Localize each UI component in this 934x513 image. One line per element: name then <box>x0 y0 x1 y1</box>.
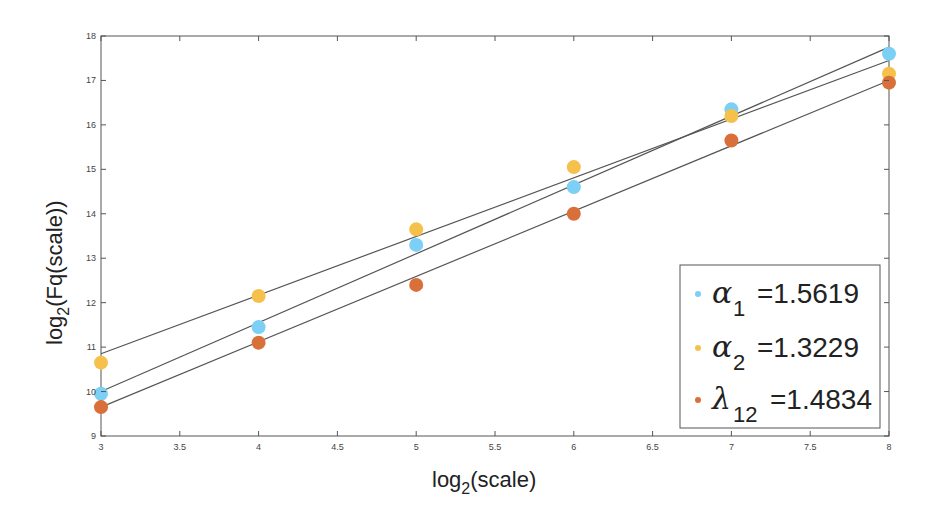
legend-greek-alpha1: α <box>712 275 732 310</box>
x-tick-label: 8 <box>886 442 891 452</box>
data-point <box>567 180 581 194</box>
y-axis-label: log2(Fq(scale)) <box>42 200 72 345</box>
x-tick-label: 3 <box>98 442 103 452</box>
x-tick-label: 6.5 <box>646 442 659 452</box>
data-point <box>94 387 108 401</box>
legend-sub-alpha1: 1 <box>733 296 745 321</box>
legend-value-alpha2: =1.3229 <box>757 332 859 363</box>
legend-sub-alpha2: 2 <box>733 350 745 375</box>
data-point <box>567 160 581 174</box>
data-point <box>724 109 738 123</box>
y-tick-label: 17 <box>86 75 96 85</box>
x-tick-label: 6 <box>571 442 576 452</box>
scaling-chart: 33.544.555.566.577.58 910111213141516171… <box>0 0 934 513</box>
x-tick-label: 7.5 <box>804 442 817 452</box>
data-point <box>94 356 108 370</box>
legend-value-alpha1: =1.5619 <box>757 278 859 309</box>
data-point <box>252 336 266 350</box>
legend-greek-alpha2: α <box>712 329 732 364</box>
legend-marker-alpha2 <box>695 345 701 351</box>
legend-greek-lambda12: λ <box>711 381 731 416</box>
data-point <box>882 47 896 61</box>
legend-marker-alpha1 <box>695 291 701 297</box>
x-tick-label: 3.5 <box>174 442 187 452</box>
x-tick-label: 4.5 <box>331 442 344 452</box>
y-tick-label: 11 <box>87 342 96 352</box>
data-point <box>94 400 108 414</box>
legend: α 1 =1.5619 α 2 =1.3229 λ 12 =1.4834 <box>680 265 880 428</box>
legend-sub-lambda12: 12 <box>733 402 757 427</box>
data-point <box>252 320 266 334</box>
y-tick-label: 13 <box>86 253 96 263</box>
y-tick-label: 10 <box>86 387 96 397</box>
x-tick-label: 5.5 <box>489 442 502 452</box>
y-tick-label: 18 <box>86 31 96 41</box>
x-axis-label: log2(scale) <box>432 467 536 497</box>
y-tick-label: 12 <box>86 298 96 308</box>
y-tick-label: 16 <box>86 120 96 130</box>
data-point <box>567 207 581 221</box>
data-point <box>409 222 423 236</box>
data-point <box>252 289 266 303</box>
y-tick-label: 15 <box>86 164 96 174</box>
y-tick-label: 9 <box>91 431 96 441</box>
x-tick-label: 4 <box>256 442 261 452</box>
legend-value-lambda12: =1.4834 <box>770 384 872 415</box>
x-tick-label: 7 <box>729 442 734 452</box>
legend-marker-lambda12 <box>695 397 701 403</box>
data-point <box>409 238 423 252</box>
x-tick-label: 5 <box>414 442 419 452</box>
data-point <box>409 278 423 292</box>
data-point <box>882 76 896 90</box>
data-point <box>724 133 738 147</box>
y-tick-label: 14 <box>86 209 96 219</box>
